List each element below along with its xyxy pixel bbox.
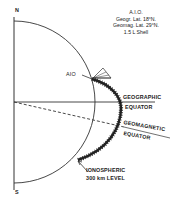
geographic-equator-label-1: GEOGRAPHIC — [123, 94, 161, 100]
ionospheric-label-1: IONOSPHERIC — [86, 167, 125, 173]
ionospheric-label-2: 300 km LEVEL — [86, 175, 125, 181]
info-line-l-shell: 1.5 L Shell — [96, 29, 176, 36]
geomagnetic-equator-line — [14, 102, 124, 127]
magnetic-field-line — [78, 79, 121, 160]
info-line-geographic-lat: Geogr. Lat. 18°N. — [96, 16, 176, 23]
info-line-geomagnetic-lat: Geomag. Lat. 29°N. — [96, 22, 176, 29]
south-pole-label: S — [15, 189, 19, 195]
station-info-block: A.I.O. Geogr. Lat. 18°N. Geomag. Lat. 29… — [96, 9, 176, 35]
info-line-station: A.I.O. — [96, 9, 176, 16]
north-pole-label: N — [15, 7, 19, 13]
geographic-equator-label-2: EQUATOR — [125, 104, 153, 110]
station-label: AIO — [66, 71, 76, 77]
